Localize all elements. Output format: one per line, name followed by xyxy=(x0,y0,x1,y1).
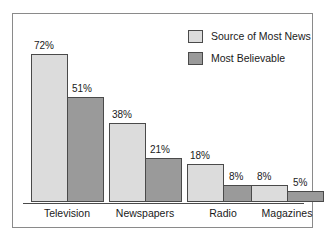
bar-magazines-source-of-most-news[interactable] xyxy=(251,185,288,202)
bar-newspapers-source-of-most-news[interactable] xyxy=(109,123,146,202)
bar-value-radio-source: 18% xyxy=(190,150,210,161)
bar-radio-source-of-most-news[interactable] xyxy=(187,164,224,202)
category-label-radio: Radio xyxy=(187,207,259,219)
legend-label-most-believable: Most Believable xyxy=(211,52,285,64)
bar-value-newspapers-believable: 21% xyxy=(150,144,170,155)
bar-value-television-source: 72% xyxy=(34,40,54,51)
bar-newspapers-most-believable[interactable] xyxy=(145,158,182,202)
x-axis-baseline xyxy=(23,203,304,204)
chart-frame: 72% 51% Television 38% 21% Newspapers 18… xyxy=(12,13,313,228)
bar-television-most-believable[interactable] xyxy=(67,97,104,202)
legend-item-source-of-most-news[interactable]: Source of Most News xyxy=(188,29,311,43)
legend-item-most-believable[interactable]: Most Believable xyxy=(188,51,311,65)
chart-legend: Source of Most News Most Believable xyxy=(188,29,311,73)
bar-pair xyxy=(31,37,103,202)
category-label-newspapers: Newspapers xyxy=(109,207,181,219)
bar-magazines-most-believable[interactable] xyxy=(287,191,324,202)
bar-group-television: 72% 51% xyxy=(31,37,103,202)
legend-swatch-icon xyxy=(188,30,203,43)
bar-value-newspapers-source: 38% xyxy=(112,109,132,120)
bar-value-magazines-believable: 5% xyxy=(293,177,307,188)
bar-group-newspapers: 38% 21% xyxy=(109,37,181,202)
legend-swatch-icon xyxy=(188,52,203,65)
bar-television-source-of-most-news[interactable] xyxy=(31,54,68,202)
bar-value-magazines-source: 8% xyxy=(257,171,271,182)
legend-label-source-of-most-news: Source of Most News xyxy=(211,30,311,42)
category-label-television: Television xyxy=(31,207,103,219)
category-label-magazines: Magazines xyxy=(251,207,323,219)
bar-value-television-believable: 51% xyxy=(72,83,92,94)
